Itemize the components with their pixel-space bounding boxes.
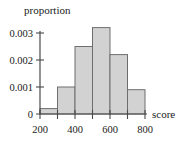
bar-200-300: [40, 109, 58, 114]
x-tick-label-400: 400: [67, 124, 83, 135]
y-axis-title: proportion: [24, 4, 71, 16]
x-tick-label-600: 600: [102, 124, 118, 135]
x-axis-title: score: [152, 108, 175, 120]
chart-canvas: proportion 0.003 0.002 0.001 0: [0, 0, 193, 148]
bar-700-800: [128, 90, 146, 114]
y-tick-label-0.001: 0.001: [9, 82, 33, 93]
y-tick-label-0.002: 0.002: [9, 55, 33, 66]
histogram-chart: proportion 0.003 0.002 0.001 0: [0, 0, 193, 148]
bar-600-700: [110, 55, 128, 114]
bar-400-500: [75, 47, 93, 115]
bar-300-400: [58, 87, 76, 114]
bar-500-600: [93, 28, 111, 114]
x-tick-label-800: 800: [137, 124, 153, 135]
y-tick-label-0: 0: [28, 109, 33, 120]
bars-group: [40, 28, 145, 114]
y-tick-label-0.003: 0.003: [9, 28, 33, 39]
x-tick-label-200: 200: [32, 124, 48, 135]
